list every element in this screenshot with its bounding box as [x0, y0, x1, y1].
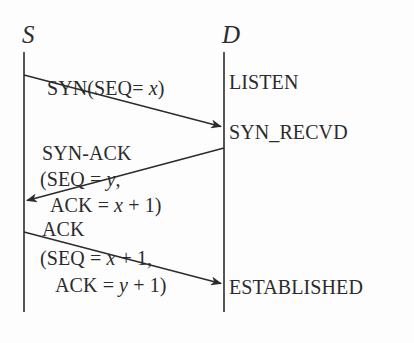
- endpoint-label-source: S: [22, 22, 35, 47]
- message-label-ack-line1: ACK: [42, 219, 85, 239]
- message-label-syn: SYN(SEQ= x): [47, 78, 164, 98]
- tcp-handshake-figure: S D SYN(SEQ= x) SYN-ACK (SEQ = y, ACK = …: [0, 0, 414, 343]
- message-label-syn-ack-line3: ACK = x + 1): [50, 195, 162, 215]
- state-label-syn-recvd: SYN_RECVD: [229, 122, 348, 142]
- message-label-ack-line3: ACK = y + 1): [55, 275, 167, 295]
- endpoint-label-destination: D: [222, 22, 241, 47]
- state-label-established: ESTABLISHED: [229, 277, 363, 297]
- message-label-syn-ack-line2: (SEQ = y,: [40, 169, 121, 189]
- state-label-listen: LISTEN: [229, 72, 298, 92]
- message-label-ack-line2: (SEQ = x + 1,: [40, 248, 152, 268]
- message-label-syn-ack-line1: SYN-ACK: [42, 143, 132, 163]
